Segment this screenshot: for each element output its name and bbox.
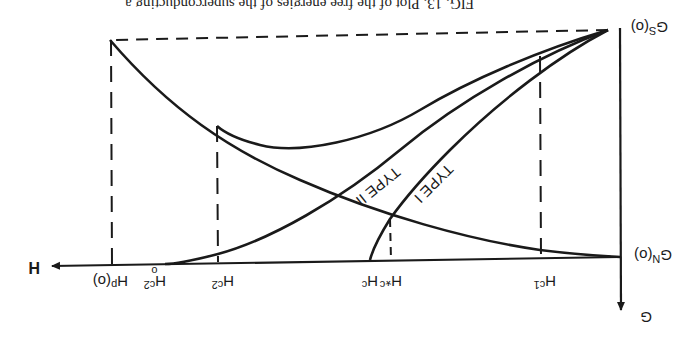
svg-text:GN(o): GN(o) — [634, 247, 672, 265]
normal-state-curve — [110, 40, 620, 257]
gs-label: GS(o) — [631, 19, 668, 37]
svg-text:Hc1: Hc1 — [534, 273, 556, 291]
type-ii-curve — [217, 30, 608, 148]
h-axis — [52, 257, 620, 266]
svg-text:Hc2: Hc2 — [212, 273, 234, 291]
hc1-dashed-line — [540, 56, 541, 258]
hc2o-label: Hc2o — [144, 265, 166, 291]
free-energy-diagram: TYPE II TYPE I GS(o) GN(o) G H Hc1 H*c H… — [0, 0, 684, 338]
hpo-label: Hp(o) — [93, 273, 128, 291]
g-axis — [620, 28, 621, 310]
g-axis-label: G — [640, 309, 652, 326]
gn-label: GN(o) — [634, 247, 672, 265]
svg-text:GS(o): GS(o) — [631, 19, 668, 37]
hpo-dashed-line — [111, 40, 112, 265]
hc-star-dashed-line — [390, 219, 391, 260]
type-ii-lower-curve — [165, 30, 608, 264]
hc-star-label: H*c — [379, 273, 402, 291]
svg-text:Hp(o): Hp(o) — [93, 273, 128, 291]
gs-reference-dashed-line — [110, 30, 608, 40]
hc2-label: Hc2 — [212, 273, 234, 291]
svg-text:H*c: H*c — [379, 273, 402, 291]
h-axis-label: H — [28, 259, 40, 276]
hc-label: Hc — [361, 273, 378, 291]
type-ii-label: TYPE II — [353, 164, 404, 210]
hc2-dashed-line — [217, 126, 218, 262]
svg-text:Hc: Hc — [361, 273, 378, 291]
hc1-label: Hc1 — [534, 273, 556, 291]
svg-text:Hc2o: Hc2o — [144, 265, 166, 291]
